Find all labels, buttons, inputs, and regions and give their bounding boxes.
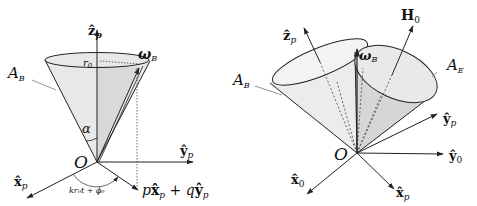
label-alpha: α xyxy=(82,121,91,136)
label-origin-right: O xyxy=(334,144,348,164)
label-cone-a-b: AB xyxy=(6,64,25,83)
phase-arc xyxy=(73,174,118,187)
label-cone-a-e: AE xyxy=(445,56,464,75)
figure: ẑp r0 ωB AB α O ŷp x̂p kr₀t + ϕ₀ px̂p + … xyxy=(0,0,477,206)
label-y-p: ŷp xyxy=(179,143,194,160)
axis-y-0 xyxy=(357,153,443,154)
label-x-p: x̂p xyxy=(14,174,28,191)
label-x-p-right: x̂p xyxy=(396,185,410,202)
axis-x-p-right xyxy=(357,153,394,189)
label-z-p: ẑp xyxy=(88,23,102,40)
label-y-0: ŷ0 xyxy=(448,148,463,165)
label-h0: H0 xyxy=(401,7,420,25)
label-origin: O xyxy=(74,152,88,172)
label-omega-b: ωB xyxy=(138,46,157,63)
leader-a-b xyxy=(32,80,56,90)
label-cone-a-b-right: AB xyxy=(231,71,250,90)
left-diagram: ẑp r0 ωB AB α O ŷp x̂p kr₀t + ϕ₀ px̂p + … xyxy=(6,23,209,200)
axis-x-0 xyxy=(307,153,357,194)
label-x-0: x̂0 xyxy=(291,172,305,189)
label-y-p-right: ŷp xyxy=(442,111,457,128)
right-diagram: ẑp H0 ωB AB AE ŷp ŷ0 O x̂0 x̂p xyxy=(231,7,464,202)
label-phase: kr₀t + ϕ₀ xyxy=(69,186,105,195)
label-z-p-right: ẑp xyxy=(283,28,296,45)
label-projection: px̂p + qŷp xyxy=(142,182,209,200)
